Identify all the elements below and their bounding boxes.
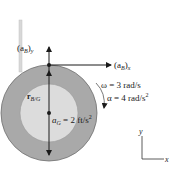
label-aB-x: (aB)x bbox=[114, 60, 131, 71]
label-aB-y: (aB)y bbox=[17, 43, 34, 54]
label-omega: ω = 3 rad/s bbox=[101, 80, 141, 90]
label-alpha: α = 4 rad/s2 bbox=[107, 92, 149, 103]
kinematics-diagram: (aB)y (aB)x ω = 3 rad/s α = 4 rad/s2 rB/… bbox=[0, 0, 169, 180]
point-B bbox=[47, 63, 51, 67]
y-axis-label: y bbox=[138, 127, 143, 136]
point-G bbox=[47, 111, 51, 115]
x-axis-label: x bbox=[164, 155, 169, 164]
